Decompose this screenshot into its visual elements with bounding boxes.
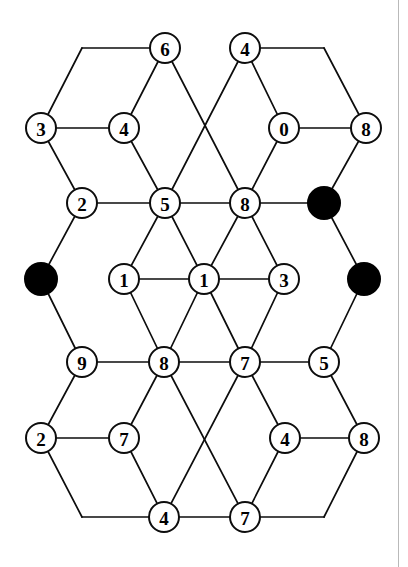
graph-node[interactable]: 4	[270, 423, 300, 453]
graph-node[interactable]: 4	[230, 33, 260, 63]
graph-node[interactable]: 1	[189, 264, 219, 294]
node-label: 1	[119, 270, 129, 291]
graph-node-filled[interactable]	[25, 263, 57, 295]
graph-node-filled[interactable]	[348, 263, 380, 295]
node-disc-filled	[308, 187, 340, 219]
graph-node[interactable]: 0	[269, 113, 299, 143]
graph-node[interactable]: 4	[149, 502, 179, 532]
graph-figure: 6434082581139875274847	[0, 0, 408, 567]
node-label: 0	[279, 119, 289, 140]
graph-node[interactable]: 6	[150, 33, 180, 63]
graph-node[interactable]: 7	[109, 423, 139, 453]
node-label: 2	[77, 194, 87, 215]
graph-node[interactable]: 2	[26, 423, 56, 453]
graph-canvas: 6434082581139875274847	[0, 0, 408, 567]
node-label: 7	[119, 429, 129, 450]
node-label: 5	[160, 194, 170, 215]
node-label: 4	[280, 429, 290, 450]
graph-node[interactable]: 9	[67, 347, 97, 377]
graph-node[interactable]: 5	[309, 347, 339, 377]
node-label: 4	[119, 119, 129, 140]
node-label: 6	[160, 39, 170, 60]
graph-node[interactable]: 7	[230, 347, 260, 377]
node-label: 4	[240, 39, 250, 60]
node-layer: 6434082581139875274847	[25, 33, 381, 532]
graph-node[interactable]: 4	[109, 113, 139, 143]
graph-node[interactable]: 1	[109, 264, 139, 294]
graph-node[interactable]: 7	[230, 502, 260, 532]
node-label: 7	[240, 508, 250, 529]
page-border-line	[398, 0, 399, 567]
node-label: 4	[159, 508, 169, 529]
graph-node[interactable]: 8	[230, 188, 260, 218]
node-label: 8	[359, 429, 369, 450]
node-label: 9	[77, 353, 87, 374]
node-label: 2	[36, 429, 46, 450]
node-label: 5	[319, 353, 329, 374]
node-label: 8	[159, 353, 169, 374]
graph-node-filled[interactable]	[308, 187, 340, 219]
graph-node[interactable]: 2	[67, 188, 97, 218]
node-label: 1	[199, 270, 209, 291]
graph-node[interactable]: 5	[150, 188, 180, 218]
graph-node[interactable]: 8	[349, 423, 379, 453]
node-label: 3	[36, 119, 46, 140]
node-label: 8	[240, 194, 250, 215]
graph-node[interactable]: 8	[351, 113, 381, 143]
node-label: 8	[361, 119, 371, 140]
node-disc-filled	[348, 263, 380, 295]
graph-node[interactable]: 3	[269, 264, 299, 294]
graph-node[interactable]: 3	[26, 113, 56, 143]
node-label: 3	[279, 270, 289, 291]
node-disc-filled	[25, 263, 57, 295]
graph-node[interactable]: 8	[149, 347, 179, 377]
node-label: 7	[240, 353, 250, 374]
